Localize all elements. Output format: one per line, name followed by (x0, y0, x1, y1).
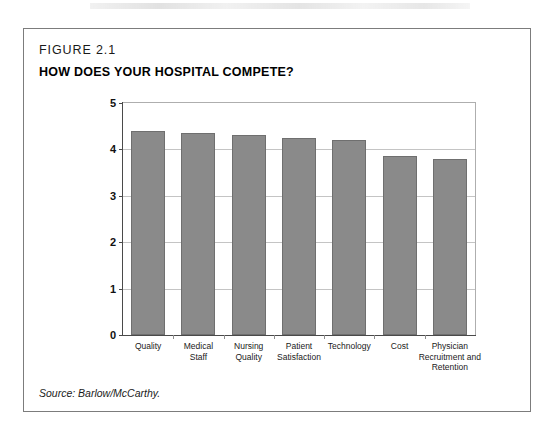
y-tick-label: 1 (110, 283, 116, 294)
source-note: Source: Barlow/McCarthy. (39, 387, 160, 399)
bar (332, 140, 366, 335)
x-tick-mark (324, 335, 325, 339)
y-tick-mark (119, 196, 123, 197)
bar (282, 138, 316, 335)
bar (131, 131, 165, 335)
bar (383, 156, 417, 335)
y-tick-mark (119, 103, 123, 104)
x-axis-line (122, 335, 476, 336)
scan-artifact (90, 3, 470, 9)
figure-number: FIGURE 2.1 (39, 43, 116, 57)
y-tick-label: 2 (110, 237, 116, 248)
bar (181, 133, 215, 335)
bar-chart: 012345 QualityMedicalStaffNursingQuality… (39, 93, 517, 378)
y-axis-line (122, 102, 123, 336)
x-tick-mark (425, 335, 426, 339)
y-tick-mark (119, 242, 123, 243)
x-tick-mark (274, 335, 275, 339)
x-tick-mark (173, 335, 174, 339)
y-tick-label: 3 (110, 190, 116, 201)
x-tick-mark (224, 335, 225, 339)
y-tick-label: 5 (110, 98, 116, 109)
x-category-label: PhysicianRecruitment andRetention (413, 341, 487, 373)
y-tick-mark (119, 335, 123, 336)
y-tick-label: 0 (110, 330, 116, 341)
bar (232, 135, 266, 335)
y-tick-mark (119, 149, 123, 150)
y-tick-label: 4 (110, 144, 116, 155)
bar (433, 159, 467, 335)
x-tick-mark (374, 335, 375, 339)
plot-area: 012345 QualityMedicalStaffNursingQuality… (122, 102, 476, 336)
y-tick-mark (119, 289, 123, 290)
page-title: HOW DOES YOUR HOSPITAL COMPETE? (39, 65, 294, 79)
figure-box: FIGURE 2.1 HOW DOES YOUR HOSPITAL COMPET… (23, 28, 531, 412)
